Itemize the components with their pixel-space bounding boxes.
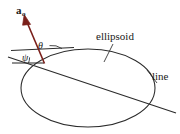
ellipsoid-label: ellipsoid: [96, 31, 134, 42]
vector-label-subscript: o: [22, 10, 26, 18]
vector-label-base: a: [16, 4, 22, 16]
theta-angle-label: θ: [38, 41, 43, 51]
psi-angle-arc: [29, 57, 30, 63]
psi-angle-label: ψ: [22, 53, 28, 63]
ellipsoid-shape: [21, 49, 155, 127]
diagram-canvas: [0, 0, 180, 134]
geometry-diagram: ellipsoid line θ ψ ao: [0, 0, 180, 134]
line-label: line: [152, 71, 169, 82]
ellipsoid-leader-line: [104, 44, 113, 62]
secant-line: [8, 57, 176, 113]
vector-label: ao: [16, 5, 26, 18]
